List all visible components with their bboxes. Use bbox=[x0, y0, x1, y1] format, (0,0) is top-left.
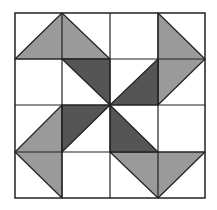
quilt-block-diagram bbox=[0, 0, 217, 210]
